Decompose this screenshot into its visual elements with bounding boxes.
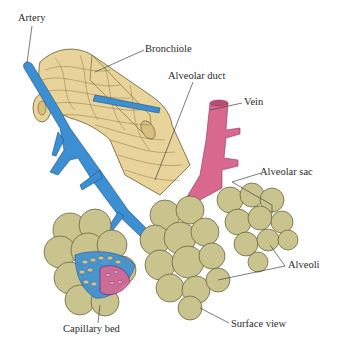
alveoli-clusters (44, 183, 298, 320)
label-alveoli: Alveoli (288, 259, 320, 270)
label-vein: Vein (244, 96, 263, 107)
label-capillary-bed: Capillary bed (63, 323, 120, 334)
label-artery: Artery (18, 12, 45, 23)
label-alveolar-duct: Alveolar duct (168, 70, 225, 81)
label-surface-view: Surface view (231, 318, 286, 329)
label-alveolar-sac: Alveolar sac (260, 166, 313, 177)
vein-shape (185, 100, 240, 200)
label-bronchiole: Bronchiole (145, 43, 192, 54)
